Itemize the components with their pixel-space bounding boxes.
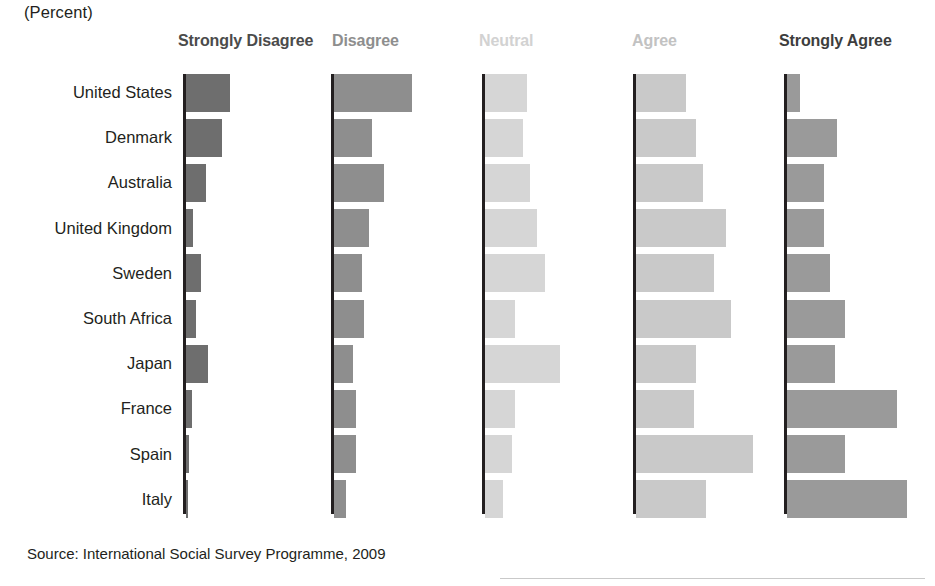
bar-row — [334, 115, 412, 160]
bar-row — [186, 432, 230, 477]
bar-group-agree — [636, 70, 753, 522]
bar-row — [186, 70, 230, 115]
bar — [485, 164, 530, 202]
panel-header-neutral: Neutral — [479, 32, 533, 50]
bar-row — [485, 251, 560, 296]
bar-row — [186, 386, 230, 431]
bar-row — [787, 477, 907, 522]
bar-row — [485, 296, 560, 341]
bar — [186, 390, 192, 428]
bar — [334, 300, 364, 338]
bar — [334, 390, 356, 428]
bar — [186, 480, 188, 518]
bar — [334, 345, 353, 383]
chart-root: (Percent) Strongly Disagree Disagree Neu… — [0, 0, 935, 586]
bar — [787, 209, 824, 247]
bar-row — [787, 160, 907, 205]
bar-row — [636, 432, 753, 477]
panel-header-strongly-agree: Strongly Agree — [779, 32, 892, 50]
bar — [485, 254, 545, 292]
bar — [186, 209, 193, 247]
source-note: Source: International Social Survey Prog… — [27, 545, 386, 562]
bar-row — [186, 206, 230, 251]
bar — [485, 345, 560, 383]
bar-row — [485, 432, 560, 477]
bar-row — [636, 386, 753, 431]
bar-row — [787, 251, 907, 296]
bar — [636, 390, 694, 428]
panel-header-strongly-disagree: Strongly Disagree — [178, 32, 313, 50]
bar-row — [485, 206, 560, 251]
bar-row — [485, 386, 560, 431]
unit-label: (Percent) — [24, 3, 93, 22]
bar — [334, 74, 412, 112]
bar-group-strongly-disagree — [186, 70, 230, 522]
panel-strongly-agree — [784, 70, 935, 520]
bar-group-strongly-agree — [787, 70, 907, 522]
bar-row — [636, 341, 753, 386]
bar-row — [485, 341, 560, 386]
bar — [787, 300, 845, 338]
bar — [186, 74, 230, 112]
bar-row — [485, 477, 560, 522]
bar — [636, 254, 714, 292]
panel-header-disagree: Disagree — [332, 32, 399, 50]
bar-row — [186, 251, 230, 296]
bar-row — [334, 296, 412, 341]
bar-row — [636, 206, 753, 251]
bar — [636, 119, 696, 157]
panel-disagree — [331, 70, 476, 520]
bar — [334, 480, 346, 518]
bar-row — [186, 296, 230, 341]
bar-row — [186, 160, 230, 205]
category-label: United States — [0, 70, 172, 115]
bar — [334, 119, 372, 157]
panel-neutral — [482, 70, 630, 520]
bar — [186, 254, 201, 292]
bar-row — [636, 115, 753, 160]
bar-row — [787, 432, 907, 477]
bar-row — [787, 70, 907, 115]
bar-row — [334, 70, 412, 115]
bar — [485, 390, 515, 428]
bar — [186, 345, 208, 383]
bar — [485, 209, 537, 247]
bar — [186, 300, 196, 338]
bar — [636, 74, 686, 112]
bar — [636, 209, 726, 247]
bar — [787, 480, 907, 518]
panel-strongly-disagree — [183, 70, 328, 520]
bar — [186, 435, 189, 473]
bar — [636, 345, 696, 383]
bar — [485, 74, 527, 112]
bar-row — [334, 206, 412, 251]
bar-row — [787, 206, 907, 251]
bar — [636, 480, 706, 518]
bar-row — [334, 160, 412, 205]
bar — [485, 435, 512, 473]
bar-row — [787, 115, 907, 160]
category-label: United Kingdom — [0, 206, 172, 251]
bar — [787, 164, 824, 202]
bar-row — [636, 70, 753, 115]
bar-row — [334, 251, 412, 296]
bar — [787, 119, 837, 157]
bar — [334, 164, 384, 202]
bar-row — [485, 115, 560, 160]
category-label: Japan — [0, 341, 172, 386]
bar-row — [636, 296, 753, 341]
bar — [787, 390, 897, 428]
bar-row — [485, 160, 560, 205]
bar — [485, 119, 523, 157]
bar-row — [636, 251, 753, 296]
category-label: Sweden — [0, 251, 172, 296]
bar — [636, 164, 703, 202]
category-label: France — [0, 386, 172, 431]
bar — [334, 209, 369, 247]
bar — [787, 435, 845, 473]
bar-group-disagree — [334, 70, 412, 522]
bar-row — [334, 432, 412, 477]
bar — [485, 300, 515, 338]
bar-row — [636, 477, 753, 522]
bar — [787, 254, 830, 292]
